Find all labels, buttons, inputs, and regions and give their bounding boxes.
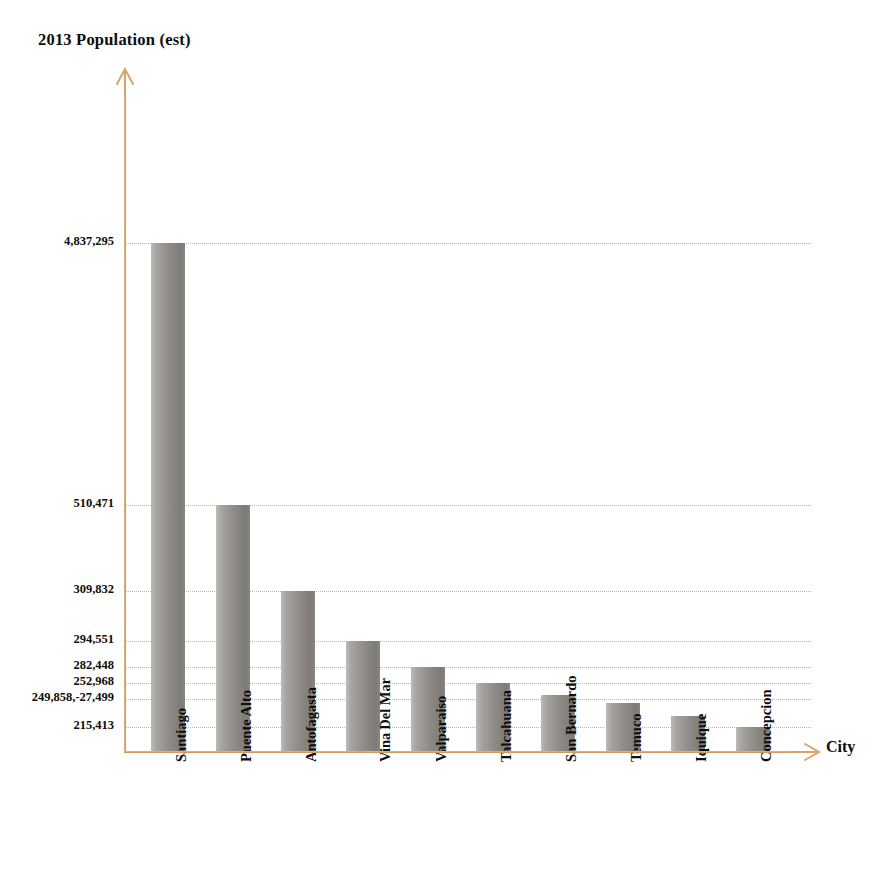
x-axis-category-label-text: VinaDel Mar xyxy=(377,675,394,762)
chart-title: 2013 Population (est) xyxy=(38,30,191,50)
x-axis-category-label-text: San Bernardo xyxy=(564,675,579,762)
y-axis-tick-label-text: 510,471 xyxy=(73,496,114,511)
y-axis-tick-label-text: 4,837,295 xyxy=(64,234,114,249)
chart-container: 2013 Population (est) 4,837,295510,47130… xyxy=(0,0,887,895)
y-axis-tick-label-text: 252,968 xyxy=(73,674,114,689)
bar xyxy=(151,243,185,751)
bar xyxy=(346,641,380,751)
y-axis-tick-label-text: 215,413 xyxy=(73,718,114,733)
y-axis-arrow-icon xyxy=(111,66,139,96)
x-axis-category-label-text: Santiago xyxy=(174,708,189,762)
x-axis-category-label-text: Temuco xyxy=(629,713,644,762)
x-axis-arrow-icon xyxy=(789,737,821,767)
y-axis-tick-label-text: 309,832 xyxy=(73,582,114,597)
y-axis-tick-label-text: 249,858,-27,499 xyxy=(32,690,114,705)
gridline xyxy=(124,243,811,244)
y-axis-tick-label-text: 294,551 xyxy=(73,632,114,647)
y-axis-line xyxy=(124,86,126,753)
x-axis-category-label-text: Iquique xyxy=(694,714,709,762)
y-axis-tick-label-text: 282,448 xyxy=(73,658,114,673)
x-axis-title: City xyxy=(826,738,855,756)
x-axis-category-label-line: Vina xyxy=(377,733,394,762)
x-axis-line xyxy=(124,751,811,753)
x-axis-category-label-line: Del Mar xyxy=(377,678,394,730)
